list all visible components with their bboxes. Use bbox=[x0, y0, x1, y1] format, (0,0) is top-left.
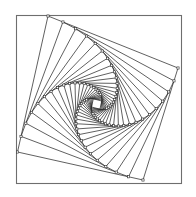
whirling-squares-spiral-svg bbox=[0, 0, 196, 197]
vertex-marker bbox=[116, 87, 118, 89]
vertex-marker bbox=[115, 77, 117, 79]
vertex-marker bbox=[116, 82, 118, 84]
figure-container bbox=[0, 0, 196, 197]
vertex-marker bbox=[76, 128, 78, 130]
vertex-marker bbox=[92, 113, 94, 115]
vertex-marker bbox=[94, 42, 96, 44]
vertex-marker bbox=[98, 120, 100, 122]
vertex-marker bbox=[123, 125, 125, 127]
vertex-marker bbox=[74, 82, 76, 84]
vertex-marker bbox=[89, 153, 91, 155]
vertex-marker bbox=[93, 86, 95, 88]
vertex-marker bbox=[20, 135, 22, 137]
vertex-marker bbox=[115, 171, 117, 173]
vertex-marker bbox=[115, 95, 117, 97]
vertex-marker bbox=[62, 21, 64, 23]
vertex-marker bbox=[106, 107, 108, 109]
vertex-marker bbox=[77, 134, 79, 136]
vertex-marker bbox=[37, 102, 39, 104]
vertex-marker bbox=[90, 85, 92, 87]
vertex-marker bbox=[43, 96, 45, 98]
vertex-marker bbox=[63, 84, 65, 86]
vertex-marker bbox=[87, 83, 89, 85]
vertex-marker bbox=[75, 123, 77, 125]
vertex-marker bbox=[168, 91, 170, 93]
vertex-marker bbox=[127, 176, 129, 178]
vertex-marker bbox=[107, 57, 109, 59]
vertex-marker bbox=[75, 118, 77, 120]
vertex-marker bbox=[83, 82, 85, 84]
vertex-marker bbox=[80, 140, 82, 142]
vertex-marker bbox=[142, 179, 144, 181]
vertex-marker bbox=[117, 125, 119, 127]
vertex-marker bbox=[112, 125, 114, 127]
vertex-marker bbox=[111, 64, 113, 66]
vertex-marker bbox=[25, 122, 27, 124]
vertex-marker bbox=[173, 80, 175, 82]
vertex-marker bbox=[57, 87, 59, 89]
vertex-marker bbox=[99, 93, 101, 95]
vertex-marker bbox=[75, 114, 77, 116]
vertex-marker bbox=[105, 165, 107, 167]
vertex-marker bbox=[75, 28, 77, 30]
vertex-marker bbox=[148, 113, 150, 115]
vertex-marker bbox=[50, 90, 52, 92]
vertex-marker bbox=[85, 35, 87, 37]
vertex-marker bbox=[30, 111, 32, 113]
vertex-marker bbox=[101, 121, 103, 123]
vertex-marker bbox=[85, 99, 87, 101]
vertex-marker bbox=[77, 107, 79, 109]
vertex-marker bbox=[114, 98, 116, 100]
vertex-marker bbox=[69, 82, 71, 84]
vertex-marker bbox=[129, 123, 131, 125]
vertex-marker bbox=[96, 159, 98, 161]
vertex-marker bbox=[113, 71, 115, 73]
vertex-marker bbox=[142, 118, 144, 120]
vertex-marker bbox=[101, 50, 103, 52]
vertex-marker bbox=[104, 123, 106, 125]
vertex-marker bbox=[84, 146, 86, 148]
vertex-marker bbox=[155, 108, 157, 110]
vertex-marker bbox=[108, 124, 110, 126]
vertex-marker bbox=[116, 92, 118, 94]
vertex-marker bbox=[47, 15, 49, 17]
vertex-marker bbox=[135, 121, 137, 123]
vertex-marker bbox=[76, 110, 78, 112]
vertex-marker bbox=[79, 82, 81, 84]
vertex-marker bbox=[16, 151, 18, 153]
vertex-marker bbox=[177, 67, 179, 69]
vertex-marker bbox=[162, 100, 164, 102]
